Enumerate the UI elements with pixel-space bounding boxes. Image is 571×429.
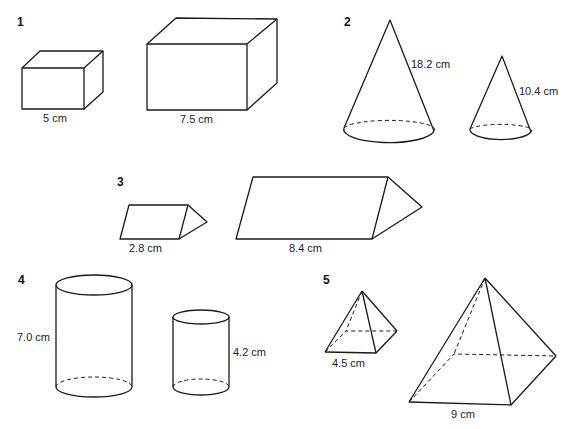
problem-number: 5: [323, 273, 330, 287]
problem-number: 4: [18, 273, 25, 287]
problem-2: 2 18.2 cm 10.4 cm: [344, 15, 558, 143]
large-cylinder: [56, 275, 132, 397]
problem-5: 5 4.5 cm 9 cm: [323, 273, 556, 420]
large-cone: [344, 20, 435, 143]
large-prism: [236, 177, 422, 239]
large-pyramid: [409, 278, 556, 405]
small-cylinder-label: 4.2 cm: [233, 346, 266, 358]
small-cuboid-label: 5 cm: [43, 112, 67, 124]
problem-number: 3: [117, 175, 124, 189]
problem-number: 1: [17, 15, 24, 29]
small-cone: [470, 56, 532, 140]
large-cuboid-label: 7.5 cm: [180, 113, 213, 125]
small-prism-label: 2.8 cm: [129, 242, 162, 254]
large-prism-label: 8.4 cm: [289, 242, 322, 254]
small-pyramid: [325, 291, 397, 353]
small-cuboid: [22, 51, 103, 109]
small-pyramid-label: 4.5 cm: [332, 357, 365, 369]
problem-4: 4 7.0 cm 4.2 cm: [17, 273, 266, 397]
problem-number: 2: [344, 15, 351, 29]
small-prism: [120, 205, 207, 239]
small-cylinder: [173, 310, 229, 395]
large-cone-label: 18.2 cm: [411, 58, 450, 70]
large-cuboid: [147, 18, 277, 110]
similar-solids-diagram: 1 5 cm 7.5 cm 2 18.2 cm 10.4 cm: [0, 0, 571, 429]
problem-1: 1 5 cm 7.5 cm: [17, 15, 277, 125]
small-cone-label: 10.4 cm: [519, 85, 558, 97]
problem-3: 3 2.8 cm 8.4 cm: [117, 175, 422, 254]
large-cylinder-label: 7.0 cm: [17, 331, 50, 343]
large-pyramid-label: 9 cm: [451, 408, 475, 420]
